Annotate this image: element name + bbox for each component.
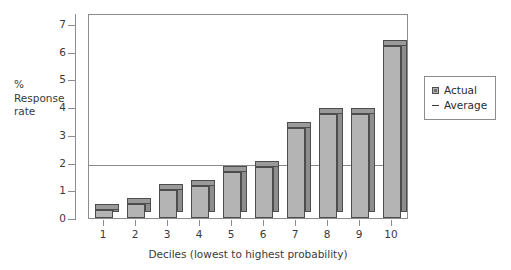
y-axis-title-line-3: rate <box>14 105 76 119</box>
legend-label-average: Average <box>444 98 487 113</box>
bar-front-face <box>127 204 145 218</box>
x-axis-tick-label: 2 <box>123 228 147 240</box>
bar-side-face <box>369 108 375 212</box>
y-axis-tick <box>68 108 76 109</box>
y-axis-title: % Response rate <box>14 78 76 119</box>
legend-item-actual: Actual <box>432 83 489 98</box>
plot-area <box>88 14 408 219</box>
y-axis-tick-label: 5 <box>50 74 66 84</box>
x-axis-tick <box>391 220 392 226</box>
y-axis-tick <box>68 136 76 137</box>
square-swatch-icon <box>432 87 439 94</box>
y-axis-spine <box>75 14 76 220</box>
bar-front-face <box>255 167 273 218</box>
y-axis-title-line-2: Response <box>14 92 76 106</box>
bar-side-face <box>241 166 247 212</box>
chart-figure: % Response rate 01234567 12345678910 Dec… <box>0 0 511 270</box>
bar-front-face <box>191 186 209 218</box>
y-axis-tick <box>68 25 76 26</box>
y-axis-title-line-1: % <box>14 78 76 92</box>
bar <box>255 161 279 218</box>
bar <box>95 204 119 218</box>
legend-label-actual: Actual <box>444 83 477 98</box>
y-axis-tick <box>68 219 76 220</box>
x-axis-title: Deciles (lowest to highest probability) <box>88 248 408 260</box>
dash-line-icon <box>432 102 439 109</box>
y-axis-tick-label: 2 <box>50 158 66 168</box>
bar <box>319 108 343 218</box>
bar <box>383 40 407 218</box>
y-axis-tick-label: 3 <box>50 130 66 140</box>
chart-legend: Actual Average <box>424 76 496 120</box>
bar-side-face <box>337 108 343 212</box>
x-axis-tick <box>327 220 328 226</box>
x-axis-tick <box>135 220 136 226</box>
x-axis-tick-label: 6 <box>251 228 275 240</box>
bar <box>287 122 311 218</box>
bar-front-face <box>223 172 241 218</box>
bar-front-face <box>319 114 337 218</box>
bar <box>223 166 247 218</box>
y-axis-tick <box>68 80 76 81</box>
x-axis-tick-label: 8 <box>315 228 339 240</box>
legend-item-average: Average <box>432 98 489 113</box>
y-axis-tick <box>68 191 76 192</box>
bar <box>191 180 215 218</box>
bar <box>127 198 151 218</box>
x-axis-tick <box>167 220 168 226</box>
bar <box>159 184 183 218</box>
x-axis-tick-label: 10 <box>379 228 403 240</box>
bar-side-face <box>305 122 311 212</box>
x-axis-tick <box>231 220 232 226</box>
y-axis-tick <box>68 164 76 165</box>
x-axis-tick-label: 5 <box>219 228 243 240</box>
y-axis-tick-label: 1 <box>50 185 66 195</box>
bar <box>351 108 375 218</box>
y-axis-tick-label: 7 <box>50 19 66 29</box>
bar-front-face <box>287 128 305 218</box>
bar-front-face <box>383 46 401 218</box>
y-axis-tick-label: 0 <box>50 213 66 223</box>
x-axis-tick-label: 7 <box>283 228 307 240</box>
x-axis-tick <box>199 220 200 226</box>
x-axis-tick-label: 3 <box>155 228 179 240</box>
bar-front-face <box>95 210 113 218</box>
x-axis-tick <box>295 220 296 226</box>
y-axis-tick-label: 4 <box>50 102 66 112</box>
x-axis-tick-label: 1 <box>91 228 115 240</box>
y-axis-tick <box>68 53 76 54</box>
x-axis-tick <box>263 220 264 226</box>
bar-front-face <box>351 114 369 218</box>
x-axis-tick-label: 9 <box>347 228 371 240</box>
y-axis-tick-label: 6 <box>50 47 66 57</box>
bar-side-face <box>273 161 279 212</box>
x-axis-tick-label: 4 <box>187 228 211 240</box>
x-axis-tick <box>103 220 104 226</box>
bar-side-face <box>401 40 407 212</box>
bar-front-face <box>159 190 177 218</box>
x-axis-tick <box>359 220 360 226</box>
